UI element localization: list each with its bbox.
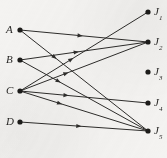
node-label-j4: J4 — [154, 97, 162, 111]
edge-line — [20, 12, 148, 91]
edge-line — [20, 42, 148, 91]
node-label-text: D — [6, 115, 14, 127]
bipartite-graph-figure — [0, 0, 167, 158]
edge-b-to-j5 — [20, 60, 148, 131]
node-dot-j2[interactable] — [145, 39, 150, 44]
node-label-text: C — [6, 84, 13, 96]
node-dot-a[interactable] — [17, 27, 22, 32]
node-label-j2: J2 — [154, 36, 162, 50]
edge-arrowhead — [76, 124, 81, 128]
edge-c-to-j2 — [20, 42, 148, 91]
node-label-c: C — [6, 85, 13, 96]
node-label-text: B — [6, 53, 13, 65]
node-label-subscript: 5 — [159, 133, 163, 141]
node-label-j3: J3 — [154, 66, 162, 80]
node-label-subscript: 3 — [159, 74, 163, 82]
edge-a-to-j2 — [20, 30, 148, 42]
node-dot-b[interactable] — [17, 57, 22, 62]
edge-arrowhead — [73, 50, 78, 54]
edge-arrowhead — [63, 72, 69, 76]
node-dot-j1[interactable] — [145, 9, 150, 14]
edge-d-to-j5 — [20, 122, 148, 131]
edge-line — [20, 60, 148, 131]
edge-arrowhead — [57, 101, 63, 105]
node-dot-j3[interactable] — [145, 69, 150, 74]
edge-arrowhead — [55, 78, 61, 82]
node-label-b: B — [6, 54, 13, 65]
node-label-j1: J1 — [154, 6, 162, 20]
node-label-subscript: 4 — [159, 105, 163, 113]
node-dot-d[interactable] — [17, 119, 22, 124]
node-dot-c[interactable] — [17, 88, 22, 93]
edge-layer — [20, 12, 148, 131]
edge-line — [20, 30, 148, 42]
edge-c-to-j1 — [20, 12, 148, 91]
node-layer — [17, 9, 150, 133]
node-label-d: D — [6, 116, 14, 127]
edge-line — [20, 122, 148, 131]
node-label-subscript: 2 — [159, 44, 163, 52]
node-label-subscript: 1 — [159, 14, 163, 22]
node-label-text: A — [6, 23, 13, 35]
node-dot-j5[interactable] — [145, 128, 150, 133]
node-label-j5: J5 — [154, 125, 162, 139]
edge-arrowhead — [68, 58, 74, 63]
node-dot-j4[interactable] — [145, 100, 150, 105]
node-label-a: A — [6, 24, 13, 35]
